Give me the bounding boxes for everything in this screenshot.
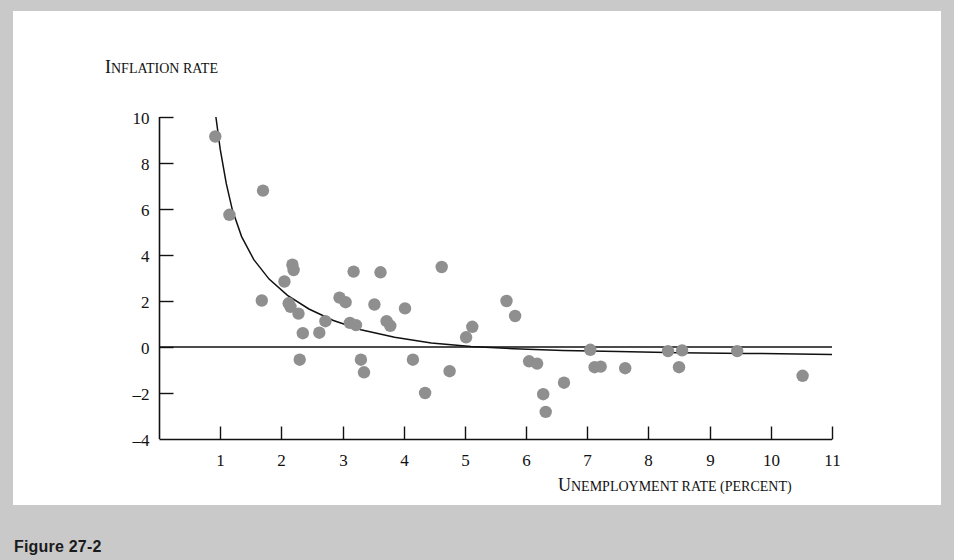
data-point	[731, 345, 743, 357]
x-tick-label: 7	[583, 451, 592, 470]
data-point	[558, 377, 570, 389]
svg-text:UNEMPLOYMENT RATE (PERCENT): UNEMPLOYMENT RATE (PERCENT)	[558, 475, 792, 495]
y-tick-label: 0	[141, 339, 150, 358]
data-point	[460, 331, 472, 343]
x-tick-label: 9	[706, 451, 715, 470]
data-point	[319, 315, 331, 327]
data-point	[313, 327, 325, 339]
x-tick-label: 4	[400, 451, 409, 470]
x-tick-labels: 1234567891011	[216, 451, 840, 470]
data-point	[294, 354, 306, 366]
data-point	[278, 275, 290, 287]
x-tick-label: 1	[216, 451, 225, 470]
fitted-curves	[159, 117, 832, 354]
data-point	[595, 360, 607, 372]
data-point	[384, 320, 396, 332]
y-tick-marks	[160, 118, 174, 394]
data-point	[509, 310, 521, 322]
data-point	[584, 344, 596, 356]
data-point	[368, 298, 380, 310]
y-tick-label: 4	[141, 247, 150, 266]
data-point	[662, 345, 674, 357]
x-tick-label: 10	[763, 451, 780, 470]
data-point	[339, 296, 351, 308]
data-point	[619, 362, 631, 374]
data-point	[436, 261, 448, 273]
phillips-curve	[216, 117, 832, 354]
data-point	[355, 354, 367, 366]
y-tick-label: –2	[132, 385, 150, 404]
data-point	[676, 344, 688, 356]
data-point	[257, 184, 269, 196]
y-tick-labels: 1086420–2–4	[132, 109, 151, 450]
data-point	[399, 302, 411, 314]
scatter-points	[209, 130, 809, 418]
figure-panel: INFLATION RATE UNEMPLOYMENT RATE (PERCEN…	[13, 11, 941, 505]
y-tick-label: 10	[133, 109, 150, 128]
data-point	[531, 357, 543, 369]
y-tick-label: 2	[141, 293, 150, 312]
data-point	[287, 264, 299, 276]
data-point	[297, 327, 309, 339]
data-point	[347, 265, 359, 277]
y-axis-title: INFLATION RATE	[105, 57, 218, 77]
y-tick-label: 8	[141, 155, 150, 174]
figure-caption: Figure 27-2	[14, 538, 102, 556]
figure-page: INFLATION RATE UNEMPLOYMENT RATE (PERCEN…	[0, 0, 954, 560]
x-axis-title: UNEMPLOYMENT RATE (PERCENT)	[558, 475, 792, 495]
data-point	[407, 354, 419, 366]
data-point	[796, 370, 808, 382]
data-point	[443, 365, 455, 377]
x-tick-label: 5	[461, 451, 470, 470]
x-tick-label: 11	[824, 451, 840, 470]
data-point	[209, 130, 221, 142]
data-point	[466, 321, 478, 333]
y-tick-label: 6	[141, 201, 150, 220]
data-point	[419, 387, 431, 399]
data-point	[374, 266, 386, 278]
x-tick-label: 2	[277, 451, 286, 470]
data-point	[358, 366, 370, 378]
data-point	[223, 209, 235, 221]
y-tick-label: –4	[132, 431, 151, 450]
x-tick-marks	[221, 427, 833, 440]
data-point	[673, 361, 685, 373]
data-point	[500, 295, 512, 307]
data-point	[540, 406, 552, 418]
data-point	[350, 319, 362, 331]
x-tick-label: 6	[522, 451, 531, 470]
data-point	[537, 388, 549, 400]
data-point	[256, 294, 268, 306]
phillips-curve-chart: INFLATION RATE UNEMPLOYMENT RATE (PERCEN…	[13, 11, 941, 505]
x-tick-label: 8	[644, 451, 653, 470]
data-point	[292, 307, 304, 319]
chart-axes	[160, 117, 833, 440]
svg-text:INFLATION RATE: INFLATION RATE	[105, 57, 218, 77]
x-tick-label: 3	[339, 451, 348, 470]
